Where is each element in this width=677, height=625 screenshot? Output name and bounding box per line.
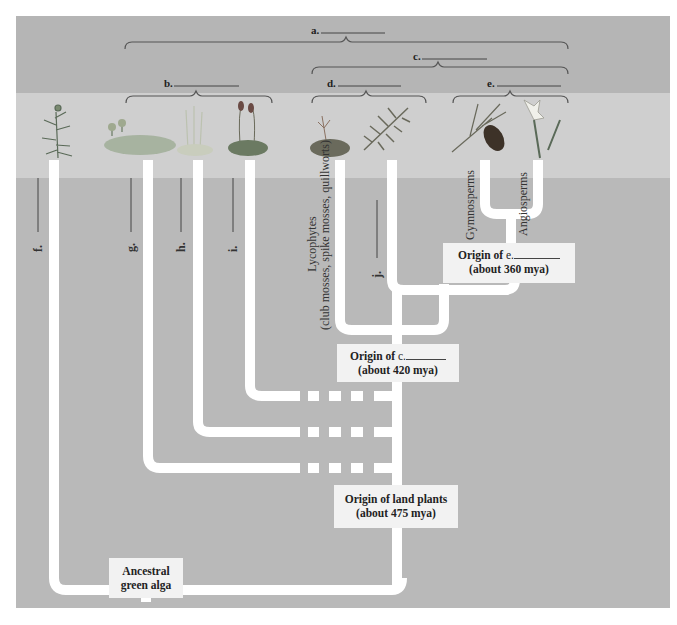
ancestor-line1: Ancestral: [109, 564, 183, 578]
origin-e-date: (about 360 mya): [443, 262, 575, 276]
background-top: [16, 16, 670, 93]
lycophytes-examples: (club mosses, spike mosses, quillworts): [319, 158, 332, 330]
origin-e-blank: [514, 258, 560, 259]
taxon-label-h: h.: [175, 242, 188, 252]
taxon-label-f: f.: [32, 245, 45, 252]
node-origin-c-text: Origin of c. (about 420 mya): [337, 349, 459, 377]
origin-c-date: (about 420 mya): [337, 363, 459, 377]
label-b: b.: [164, 77, 173, 89]
origin-land-date: (about 475 mya): [334, 506, 458, 520]
phylogenetic-tree-diagram: a. c. b. d. e.: [0, 0, 677, 625]
node-origin-e-text: Origin of e. (about 360 mya): [443, 248, 575, 276]
label-e: e.: [487, 77, 495, 89]
taxon-label-g: g.: [125, 243, 138, 252]
taxon-label-j: j.: [371, 271, 384, 278]
label-a: a.: [311, 24, 320, 36]
origin-e-letter: e.: [506, 249, 514, 261]
label-c: c.: [413, 50, 421, 62]
origin-e-prefix: Origin of: [458, 249, 503, 261]
origin-c-letter: c.: [398, 350, 406, 362]
taxon-label-angiosperms: Angiosperms: [517, 172, 530, 236]
node-origin-land-plants-text: Origin of land plants (about 475 mya): [334, 492, 458, 520]
taxon-label-i: i.: [227, 246, 240, 252]
taxon-label-gymnosperms: Gymnosperms: [464, 170, 477, 240]
taxon-label-lycophytes: Lycophytes (club mosses, spike mosses, q…: [306, 158, 332, 330]
node-ancestral-text: Ancestral green alga: [109, 564, 183, 592]
origin-c-prefix: Origin of: [350, 350, 395, 362]
origin-c-blank: [406, 359, 446, 360]
ancestor-line2: green alga: [109, 578, 183, 592]
label-d: d.: [327, 77, 336, 89]
origin-land-title: Origin of land plants: [334, 492, 458, 506]
